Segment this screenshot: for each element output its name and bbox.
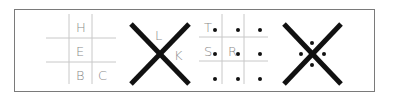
x-panel-plain: L K <box>131 24 189 84</box>
label-r: R <box>228 44 237 59</box>
grid-panel-plain: H E B C <box>46 14 116 84</box>
dot <box>299 52 303 56</box>
dot <box>236 28 240 32</box>
x-panel-dotted <box>284 24 341 84</box>
dot-set <box>213 28 262 81</box>
dot <box>213 52 217 56</box>
label-t: T <box>204 20 212 35</box>
label-l: L <box>155 28 162 43</box>
pigpen-diagram: H E B C L K T S R <box>0 0 394 98</box>
label-b: B <box>76 68 85 83</box>
dot <box>310 41 314 45</box>
dot <box>322 52 326 56</box>
dot <box>310 63 314 67</box>
dot <box>236 77 240 81</box>
label-h: H <box>76 20 86 35</box>
dot <box>258 77 262 81</box>
grid-panel-dotted: T S R <box>199 14 268 84</box>
label-s: S <box>204 44 212 59</box>
dot <box>213 28 217 32</box>
dot <box>213 77 217 81</box>
label-e: E <box>76 44 84 59</box>
label-k: K <box>174 48 183 63</box>
dot <box>236 52 240 56</box>
dot <box>258 28 262 32</box>
label-c: C <box>98 68 107 83</box>
dot <box>258 52 262 56</box>
